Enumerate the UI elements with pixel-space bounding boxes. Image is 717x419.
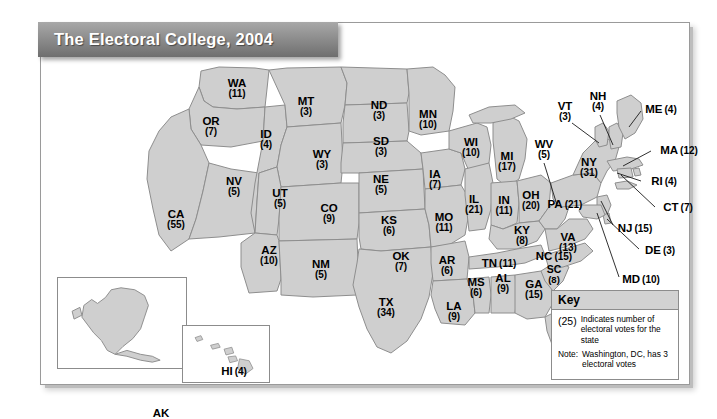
hawaii-map-graphic [183, 326, 269, 382]
state-shape-ia [421, 149, 465, 189]
figure-title-bar: The Electoral College, 2004 [38, 22, 338, 57]
leader-line-de [607, 219, 639, 249]
state-shape-mi [493, 115, 527, 187]
state-shape-ut [255, 167, 281, 235]
state-shape-mo [425, 185, 469, 247]
state-shape-pa [551, 173, 601, 207]
key-note-label: Note: [558, 349, 582, 370]
state-shape-ny-li [615, 181, 637, 189]
state-shape-la [431, 279, 475, 325]
map-panel: WA(11)OR(7)CA(55)NV(5)ID(4)MT(3)WY(3)UT(… [40, 22, 690, 385]
key-note-row: Note: Washington, DC, has 3 electoral vo… [558, 349, 673, 370]
state-shape-ar [431, 241, 469, 281]
state-shape-az [241, 233, 281, 293]
key-note-text: Washington, DC, has 3 electoral votes [582, 349, 673, 370]
state-shape-sd [343, 103, 409, 143]
state-shape-ak [72, 288, 160, 362]
state-shape-al [491, 275, 517, 313]
state-shape-ok [359, 209, 431, 251]
state-shape-ct [617, 168, 633, 178]
key-sample-description: Indicates number of electoral votes for … [581, 314, 673, 345]
state-shape-ne [341, 141, 423, 173]
state-shape-wy [277, 123, 343, 187]
hawaii-islands [195, 336, 253, 375]
hawaii-inset-box: HI(4) [182, 325, 270, 383]
state-shape-ks [359, 169, 425, 213]
state-abbr: AK [153, 407, 170, 419]
state-shape-nm [279, 239, 359, 297]
state-shape-in [491, 181, 519, 229]
state-shape-md [579, 205, 605, 219]
state-shape-ri [633, 168, 641, 176]
state-shape-nd [341, 67, 409, 105]
state-label-ak: AK(3) [153, 407, 170, 419]
state-shape-vt [595, 123, 609, 147]
state-shape-il [465, 163, 493, 231]
key-heading: Key [552, 291, 678, 310]
state-shape-co [279, 183, 359, 241]
key-legend-box: Key (25) Indicates number of electoral v… [551, 290, 679, 380]
state-shape-mn [407, 67, 455, 135]
state-shape-tx [353, 247, 433, 353]
key-body: (25) Indicates number of electoral votes… [552, 310, 678, 372]
state-shape-wa [199, 67, 269, 109]
alaska-inset-box: AK(3) [57, 277, 187, 369]
alaska-map-graphic [58, 278, 186, 368]
key-sample-value: (25) [558, 314, 581, 345]
electoral-college-map-figure: WA(11)OR(7)CA(55)NV(5)ID(4)MT(3)WY(3)UT(… [0, 0, 717, 419]
page-title: The Electoral College, 2004 [38, 30, 273, 49]
key-sample-row: (25) Indicates number of electoral votes… [558, 314, 673, 345]
